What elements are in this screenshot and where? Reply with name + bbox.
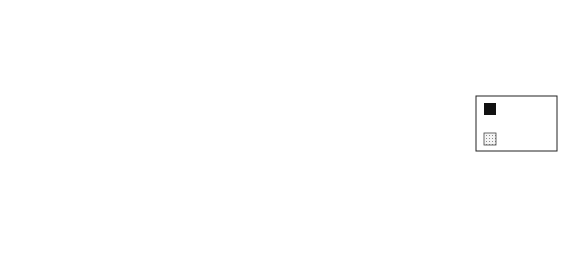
bar-chart	[0, 0, 583, 271]
legend-swatch-trans	[484, 133, 496, 145]
legend-swatch-cpu-t	[484, 103, 496, 115]
legend	[476, 96, 557, 151]
